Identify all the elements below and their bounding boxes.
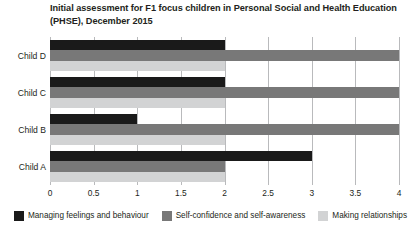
- bar-row: [50, 151, 399, 161]
- chart-legend: Managing feelings and behaviourSelf-conf…: [14, 211, 420, 221]
- legend-swatch-icon: [162, 211, 172, 221]
- legend-item-1[interactable]: Managing feelings and behaviour: [14, 211, 162, 221]
- bar-row: [50, 77, 399, 87]
- legend-item-3[interactable]: Making relationships: [318, 211, 420, 221]
- legend-label: Making relationships: [332, 211, 407, 221]
- legend-label: Managing feelings and behaviour: [28, 211, 149, 221]
- bar-group-child-a: [50, 148, 399, 185]
- y-axis-label-child-a: Child A: [2, 162, 46, 172]
- bar-row: [50, 61, 399, 71]
- bar[interactable]: [50, 124, 399, 134]
- y-axis-label-child-d: Child D: [2, 51, 46, 61]
- bar[interactable]: [50, 77, 225, 87]
- chart-figure: Initial assessment for F1 focus children…: [0, 0, 420, 238]
- legend-swatch-icon: [318, 211, 328, 221]
- bar[interactable]: [50, 61, 225, 71]
- y-axis-label-child-b: Child B: [2, 125, 46, 135]
- bar[interactable]: [50, 40, 225, 50]
- bar-row: [50, 87, 399, 97]
- y-axis-category-labels: Child DChild CChild BChild A: [0, 37, 46, 185]
- legend-label: Self-confidence and self-awareness: [176, 211, 306, 221]
- chart-title: Initial assessment for F1 focus children…: [50, 2, 402, 29]
- bar-row: [50, 124, 399, 134]
- x-tick-label-4: 4: [397, 188, 402, 198]
- x-axis: 00.511.522.533.54: [50, 185, 399, 201]
- chart-title-line-1: Initial assessment for F1 focus children…: [50, 3, 350, 13]
- bar[interactable]: [50, 172, 225, 182]
- bar-group-child-d: [50, 37, 399, 74]
- plot-area: [50, 37, 399, 185]
- legend-item-2[interactable]: Self-confidence and self-awareness: [162, 211, 319, 221]
- bar-row: [50, 50, 399, 60]
- bar-row: [50, 161, 399, 171]
- x-tick-label-1-5: 1.5: [175, 188, 187, 198]
- x-tick-label-3: 3: [309, 188, 314, 198]
- x-tick-label-0: 0: [48, 188, 53, 198]
- bar-row: [50, 114, 399, 124]
- x-tick-label-3-5: 3.5: [350, 188, 362, 198]
- gridline-4: [399, 37, 400, 185]
- x-tick-label-0-5: 0.5: [88, 188, 100, 198]
- bar[interactable]: [50, 161, 225, 171]
- x-tick-label-1: 1: [135, 188, 140, 198]
- bar-group-child-b: [50, 111, 399, 148]
- bars-layer: [50, 37, 399, 185]
- bar-row: [50, 135, 399, 145]
- bar[interactable]: [50, 98, 225, 108]
- y-axis-label-child-c: Child C: [2, 88, 46, 98]
- legend-swatch-icon: [14, 211, 24, 221]
- bar-group-child-c: [50, 74, 399, 111]
- x-tick-label-2-5: 2.5: [262, 188, 274, 198]
- bar[interactable]: [50, 151, 312, 161]
- bar[interactable]: [50, 135, 225, 145]
- bar[interactable]: [50, 114, 137, 124]
- bar[interactable]: [50, 87, 399, 97]
- bar-row: [50, 172, 399, 182]
- bar-row: [50, 98, 399, 108]
- bar[interactable]: [50, 50, 399, 60]
- bar-row: [50, 40, 399, 50]
- x-tick-label-2: 2: [222, 188, 227, 198]
